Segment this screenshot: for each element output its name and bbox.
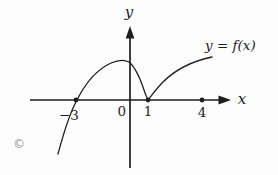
- curve-label: y = f(x): [204, 37, 256, 53]
- point-one: [146, 98, 151, 103]
- graph-svg: y x y = f(x) −3 0 1 4 ©: [0, 0, 278, 175]
- tick-label-one: 1: [144, 103, 153, 119]
- point-minus-three: [74, 98, 79, 103]
- point-four: [200, 98, 205, 103]
- tick-label-minus-three: −3: [59, 107, 79, 123]
- tick-label-zero: 0: [117, 103, 126, 119]
- y-axis-arrowhead: [126, 26, 135, 39]
- x-axis-arrowhead: [219, 96, 232, 105]
- tick-label-four: 4: [198, 104, 207, 120]
- copyright-icon: ©: [13, 137, 25, 151]
- math-figure: y x y = f(x) −3 0 1 4 ©: [0, 0, 278, 175]
- function-curve: [58, 57, 212, 154]
- y-axis-label: y: [124, 3, 134, 21]
- x-axis-label: x: [238, 90, 247, 108]
